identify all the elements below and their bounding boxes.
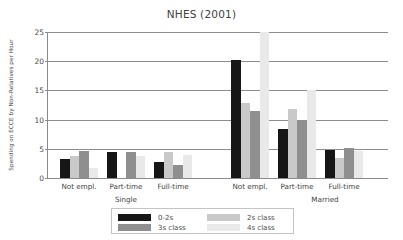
chart-title: NHES (2001) — [0, 8, 403, 20]
y-tick-mark — [45, 61, 48, 62]
legend-item[interactable]: 3s class — [118, 223, 186, 232]
bar — [325, 150, 335, 178]
bar — [70, 156, 80, 178]
bar — [89, 168, 99, 179]
legend-swatch — [207, 224, 240, 231]
gridline — [48, 120, 388, 121]
y-tick-label: 15 — [34, 86, 44, 95]
y-tick-label: 0 — [39, 174, 44, 183]
legend-item[interactable]: 4s class — [207, 223, 275, 232]
legend-swatch — [118, 214, 151, 221]
x-tick-label: Not empl. — [61, 182, 96, 191]
bar — [231, 60, 241, 178]
x-tick-label: Full-time — [328, 182, 359, 191]
y-tick-label: 5 — [39, 144, 44, 153]
x-group-label: Married — [311, 195, 338, 204]
y-tick-label: 25 — [34, 28, 44, 37]
legend-item[interactable]: 0-2s — [118, 213, 173, 222]
legend-label: 3s class — [158, 224, 186, 232]
y-tick-mark — [45, 32, 48, 33]
bar — [260, 32, 270, 178]
bar — [154, 162, 164, 178]
y-tick-mark — [45, 178, 48, 179]
legend-label: 2s class — [247, 214, 275, 222]
y-axis-label: Spending on ECCE by Non-Relatives per Ho… — [6, 32, 16, 178]
bar — [107, 152, 117, 178]
bar — [164, 152, 174, 178]
x-tick-label: Full-time — [157, 182, 188, 191]
gridline — [48, 61, 388, 62]
legend-label: 4s class — [247, 224, 275, 232]
legend-label: 0-2s — [158, 214, 173, 222]
x-tick-label: Part-time — [280, 182, 313, 191]
y-tick-mark — [45, 90, 48, 91]
bar — [173, 165, 183, 178]
bar — [241, 103, 251, 178]
legend-swatch — [118, 224, 151, 231]
bar — [79, 151, 89, 178]
y-tick-label: 10 — [34, 115, 44, 124]
plot-area: 0510152025Not empl.Part-timeFull-timeNot… — [47, 32, 388, 179]
gridline — [48, 90, 388, 91]
y-tick-label: 20 — [34, 57, 44, 66]
x-group-label: Single — [115, 195, 137, 204]
bar — [288, 109, 298, 178]
bar — [60, 159, 70, 178]
bar — [307, 90, 317, 178]
bar — [344, 148, 354, 178]
bar — [297, 120, 307, 178]
gridline — [48, 149, 388, 150]
bar — [136, 156, 146, 178]
x-tick-label: Not empl. — [232, 182, 267, 191]
bar — [126, 152, 136, 178]
legend-item[interactable]: 2s class — [207, 213, 275, 222]
y-tick-mark — [45, 149, 48, 150]
bar — [354, 151, 364, 178]
bar — [335, 158, 345, 178]
bar — [183, 155, 193, 178]
legend-swatch — [207, 214, 240, 221]
bar — [250, 111, 260, 178]
chart-legend: 0-2s2s class3s class4s class — [111, 208, 294, 234]
y-tick-mark — [45, 120, 48, 121]
chart-figure: NHES (2001) Spending on ECCE by Non-Rela… — [0, 0, 403, 240]
gridline — [48, 32, 388, 33]
x-tick-label: Part-time — [109, 182, 142, 191]
bar — [278, 129, 288, 178]
